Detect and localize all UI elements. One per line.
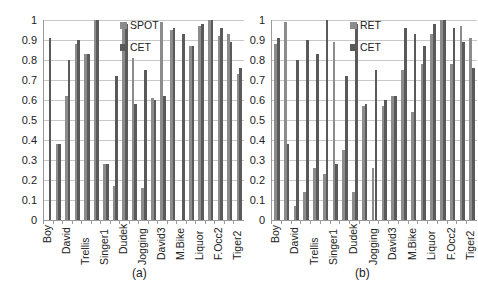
y-tick-label: 0 bbox=[7, 214, 37, 226]
bar-cet bbox=[433, 24, 436, 220]
bar-cet bbox=[326, 20, 329, 220]
x-tick-label: David3 bbox=[156, 227, 167, 260]
x-tick bbox=[369, 220, 370, 224]
x-tick-label: Dudek bbox=[118, 224, 129, 254]
x-tick bbox=[205, 220, 206, 224]
legend-label: CET bbox=[130, 41, 151, 53]
bar-cet bbox=[443, 20, 446, 220]
y-tick-label: 0.2 bbox=[235, 174, 265, 186]
x-tick bbox=[176, 220, 177, 224]
x-tick bbox=[447, 220, 448, 224]
legend-b: RETCET bbox=[350, 19, 381, 63]
legend-item: CET bbox=[350, 41, 381, 53]
y-tick-label: 0.7 bbox=[7, 74, 37, 86]
x-tick-label: Trellis bbox=[309, 238, 320, 266]
bar-cet bbox=[472, 68, 475, 220]
x-tick-label: Singer1 bbox=[99, 229, 110, 265]
y-tick-label: 0.9 bbox=[7, 34, 37, 46]
x-tick-label: David bbox=[61, 227, 72, 254]
y-tick-label: 0.9 bbox=[235, 34, 265, 46]
caption-b: (b) bbox=[355, 266, 370, 280]
x-tick bbox=[330, 220, 331, 224]
x-tick bbox=[359, 220, 360, 224]
bar-cet bbox=[106, 164, 109, 220]
bar-cet bbox=[345, 76, 348, 220]
x-tick bbox=[81, 220, 82, 224]
bar-cet bbox=[201, 24, 204, 220]
y-tick-label: 0.8 bbox=[235, 54, 265, 66]
legend-swatch-icon bbox=[120, 44, 127, 51]
y-tick-label: 0.4 bbox=[235, 134, 265, 146]
x-tick-label: F.Occ2 bbox=[446, 227, 457, 260]
y-tick-label: 0.2 bbox=[7, 174, 37, 186]
x-tick bbox=[62, 220, 63, 224]
x-tick bbox=[91, 220, 92, 224]
x-tick-label: Boy bbox=[270, 225, 281, 243]
y-tick-label: 0.1 bbox=[7, 194, 37, 206]
x-tick-label: Boy bbox=[42, 225, 53, 243]
x-tick-label: David bbox=[289, 227, 300, 254]
x-tick bbox=[148, 220, 149, 224]
caption-a: (a) bbox=[132, 266, 147, 280]
legend-item: CET bbox=[120, 41, 159, 53]
bar-cet bbox=[163, 96, 166, 220]
x-tick bbox=[417, 220, 418, 224]
legend-swatch-icon bbox=[120, 22, 127, 29]
bar-cet bbox=[384, 100, 387, 220]
bar-cet bbox=[296, 60, 299, 220]
x-tick-label: M.Bike bbox=[175, 228, 186, 260]
x-tick bbox=[291, 220, 292, 224]
bar-cet bbox=[68, 60, 71, 220]
x-tick-label: Jogging bbox=[368, 228, 379, 265]
legend-item: SPOT bbox=[120, 19, 159, 31]
bar-cet bbox=[87, 54, 90, 220]
x-tick bbox=[271, 220, 272, 224]
x-tick bbox=[466, 220, 467, 224]
legend-label: SPOT bbox=[130, 19, 159, 31]
x-tick-label: Tiger2 bbox=[465, 230, 476, 259]
bar-cet bbox=[154, 100, 157, 220]
bar-cet bbox=[335, 164, 338, 220]
y-tick-label: 1 bbox=[7, 14, 37, 26]
x-tick bbox=[339, 220, 340, 224]
x-tick bbox=[195, 220, 196, 224]
x-tick bbox=[388, 220, 389, 224]
bar-cet bbox=[423, 46, 426, 220]
y-tick-label: 0.3 bbox=[235, 154, 265, 166]
x-tick bbox=[427, 220, 428, 224]
bar-cet bbox=[306, 40, 309, 220]
x-tick bbox=[138, 220, 139, 224]
bar-cet bbox=[144, 70, 147, 220]
x-tick bbox=[224, 220, 225, 224]
x-tick bbox=[437, 220, 438, 224]
bar-cet bbox=[230, 42, 233, 220]
bar-cet bbox=[134, 104, 137, 220]
chart-b: RETCET (b) 00.10.20.30.40.50.60.70.80.91… bbox=[240, 0, 478, 298]
x-tick bbox=[110, 220, 111, 224]
bar-cet bbox=[173, 28, 176, 220]
x-tick bbox=[167, 220, 168, 224]
bar-cet bbox=[115, 76, 118, 220]
bar-cet bbox=[220, 28, 223, 220]
y-tick-label: 0.1 bbox=[235, 194, 265, 206]
legend-swatch-icon bbox=[350, 44, 357, 51]
x-tick bbox=[320, 220, 321, 224]
x-tick-label: Dudek bbox=[348, 224, 359, 254]
bar-cet bbox=[287, 144, 290, 220]
x-tick-label: David3 bbox=[387, 227, 398, 260]
legend-label: RET bbox=[360, 19, 381, 31]
bar-cet bbox=[277, 38, 280, 220]
y-tick-label: 0.6 bbox=[7, 94, 37, 106]
x-tick bbox=[129, 220, 130, 224]
x-tick bbox=[100, 220, 101, 224]
bar-cet bbox=[182, 34, 185, 220]
x-tick bbox=[43, 220, 44, 224]
bar-cet bbox=[462, 42, 465, 220]
x-tick bbox=[408, 220, 409, 224]
bar-cet bbox=[96, 20, 99, 220]
y-tick-label: 0.5 bbox=[235, 114, 265, 126]
bar-cet bbox=[394, 96, 397, 220]
y-tick-label: 0.6 bbox=[235, 94, 265, 106]
x-tick bbox=[398, 220, 399, 224]
legend-a: SPOTCET bbox=[120, 19, 159, 63]
